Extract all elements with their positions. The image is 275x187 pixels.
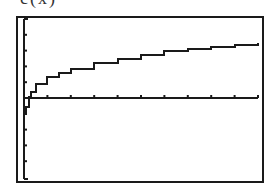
graph-plot bbox=[0, 0, 275, 187]
function-curve bbox=[25, 43, 258, 114]
